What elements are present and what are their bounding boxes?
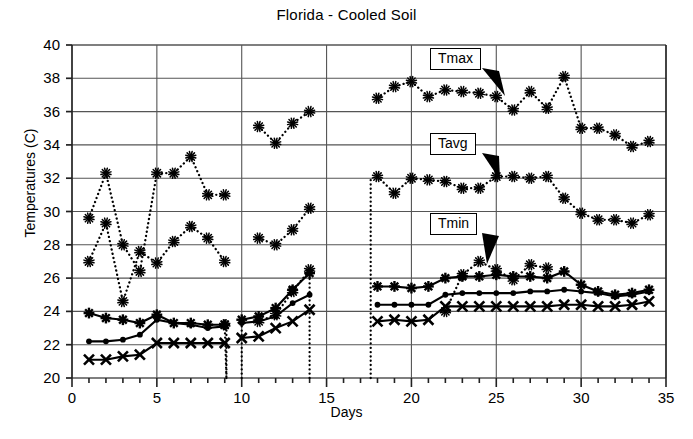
x-tick-label: 0 (55, 390, 89, 405)
series-Tmin-a (84, 266, 655, 330)
series-Tmin-c (84, 296, 654, 364)
y-tick-label: 38 (26, 70, 60, 85)
series-line (259, 208, 310, 245)
x-tick-label: 30 (564, 390, 598, 405)
y-tick-label: 40 (26, 37, 60, 52)
y-tick-label: 26 (26, 270, 60, 285)
chart-root: Florida - Cooled Soil Temperatures (C) D… (0, 0, 693, 439)
x-tick-label: 5 (140, 390, 174, 405)
y-tick-label: 22 (26, 337, 60, 352)
y-tick-label: 20 (26, 370, 60, 385)
x-tick-label: 20 (394, 390, 428, 405)
y-tick-label: 32 (26, 170, 60, 185)
y-tick-label: 36 (26, 104, 60, 119)
series-Tmax (84, 72, 654, 277)
x-tick-label: 25 (479, 390, 513, 405)
annotation-arrow-tmax (482, 68, 505, 96)
series-line (259, 112, 310, 144)
series-line (377, 177, 649, 224)
x-tick-label: 10 (225, 390, 259, 405)
y-tick-label: 28 (26, 237, 60, 252)
series-Tavg (84, 172, 654, 307)
series-Tmin-b (86, 287, 652, 344)
y-tick-label: 34 (26, 137, 60, 152)
plot-area (0, 0, 693, 439)
annotation-label-tmax: Tmax (430, 48, 481, 70)
x-tick-label: 15 (310, 390, 344, 405)
y-tick-label: 30 (26, 204, 60, 219)
annotation-label-tavg: Tavg (430, 133, 476, 155)
y-tick-label: 24 (26, 303, 60, 318)
x-tick-label: 35 (649, 390, 683, 405)
annotation-label-tmin: Tmin (430, 213, 477, 235)
